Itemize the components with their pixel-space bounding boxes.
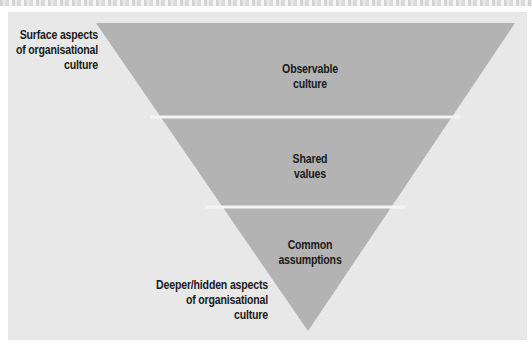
label-line: culture	[257, 77, 363, 92]
label-line: Common	[257, 238, 363, 253]
layer-label-observable-culture: Observable culture	[257, 62, 363, 92]
surface-aspects-label: Surface aspects of organisational cultur…	[0, 28, 98, 73]
layer-label-common-assumptions: Common assumptions	[257, 238, 363, 268]
label-line: culture	[0, 58, 98, 73]
label-line: culture	[127, 308, 268, 323]
label-line: assumptions	[257, 253, 363, 268]
label-line: Observable	[257, 62, 363, 77]
label-line: values	[257, 167, 363, 182]
label-line: of organisational	[0, 43, 98, 58]
layer-label-shared-values: Shared values	[257, 152, 363, 182]
label-line: Deeper/hidden aspects	[127, 278, 268, 293]
label-line: of organisational	[127, 293, 268, 308]
deeper-aspects-label: Deeper/hidden aspects of organisational …	[127, 278, 268, 323]
label-line: Surface aspects	[0, 28, 98, 43]
label-line: Shared	[257, 152, 363, 167]
